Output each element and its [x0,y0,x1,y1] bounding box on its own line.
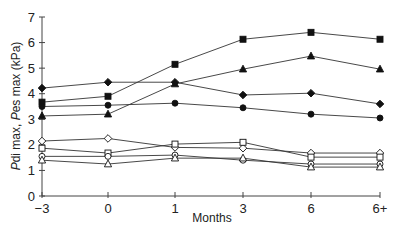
triangle-marker [104,110,111,117]
triangle-marker [307,52,314,59]
circle-marker [39,104,45,110]
diamond-marker [38,84,46,92]
square-marker [240,36,246,42]
triangle-marker [38,112,45,119]
y-tick-label: 7 [28,10,35,25]
y-axis-label: Pdi max, Pes max (kPa) [9,42,23,171]
circle-marker [308,111,314,117]
line-chart: 01234567 −301366+ Months Pdi max, Pes ma… [0,0,397,238]
x-tick-label: 0 [104,201,111,216]
square-marker [105,93,111,99]
y-tick-label: 6 [28,35,35,50]
x-tick-label: 6+ [373,201,388,216]
circle-marker [105,153,111,159]
square-marker [172,141,178,147]
y-tick-label: 3 [28,112,35,127]
diamond-marker [104,135,112,143]
series-filled-circle [39,100,383,121]
series-filled-diamond [38,78,384,107]
series-filled-square [39,29,383,105]
series-open-square [39,139,383,160]
x-tick-label: 3 [239,201,246,216]
data-series [38,29,384,170]
square-marker [172,61,178,67]
square-marker [377,154,383,160]
x-axis-label: Months [192,211,231,225]
x-tick-label: −3 [35,201,50,216]
circle-marker [105,102,111,108]
diamond-marker [376,100,384,108]
diamond-marker [104,78,112,86]
diamond-marker [239,91,247,99]
diamond-marker [307,89,315,97]
series-filled-triangle [38,52,383,119]
triangle-marker [239,154,246,161]
y-tick-label: 5 [28,61,35,76]
circle-marker [172,100,178,106]
y-tick-label: 1 [28,163,35,178]
square-marker [308,29,314,35]
square-marker [308,154,314,160]
y-tick-label: 4 [28,86,35,101]
diamond-marker [38,137,46,145]
circle-marker [377,115,383,121]
x-tick-label: 6 [307,201,314,216]
x-tick-label: 1 [171,201,178,216]
square-marker [240,139,246,145]
axes [42,17,380,196]
series-open-diamond [38,135,384,157]
series-open-circle [39,152,383,167]
circle-marker [240,105,246,111]
y-tick-label: 2 [28,137,35,152]
square-marker [377,36,383,42]
square-marker [39,145,45,151]
